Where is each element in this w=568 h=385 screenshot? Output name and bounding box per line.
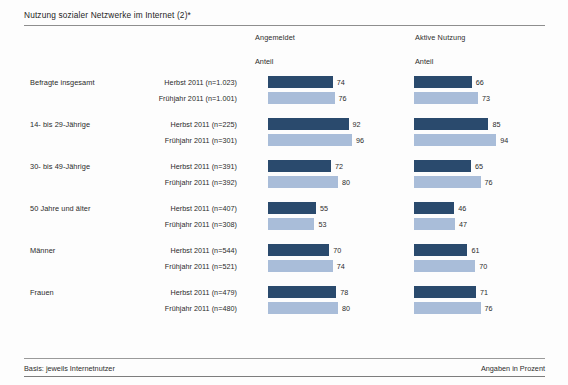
bar [414,118,488,130]
bar-track-aktive-nutzung: 73 [414,92,566,104]
bar-track-aktive-nutzung: 76 [414,302,566,314]
bar [268,134,352,146]
bar-track-aktive-nutzung: 94 [414,134,566,146]
bar [268,202,316,214]
column-header-aktive-nutzung: Aktive Nutzung [415,33,465,42]
series-label: Frühjahr 2011 (n=392) [165,178,237,187]
bar-track-aktive-nutzung: 76 [414,176,566,188]
chart-bar-row: Herbst 2011 (n=479)7871 [0,286,568,299]
chart-bar-row: Frühjahr 2011 (n=1.001)7673 [0,92,568,105]
bar [268,218,314,230]
chart-bar-row: Frühjahr 2011 (n=392)8076 [0,176,568,189]
bar-track-aktive-nutzung: 61 [414,244,566,256]
series-label: Frühjahr 2011 (n=301) [165,136,237,145]
bar-value-label: 71 [480,288,488,297]
chart-bar-row: Herbst 2011 (n=407)5546 [0,202,568,215]
bar-value-label: 73 [482,94,490,103]
series-label: Herbst 2011 (n=479) [170,288,237,297]
footer-divider-bottom [24,376,545,377]
series-label: Frühjahr 2011 (n=480) [165,304,237,313]
bar-value-label: 76 [485,178,493,187]
bar-track-aktive-nutzung: 70 [414,260,566,272]
bar-track-angemeldet: 70 [268,244,428,256]
bar-value-label: 72 [335,162,343,171]
bar [414,202,454,214]
column-subheader-angemeldet: Anteil [255,57,273,66]
bar [268,302,338,314]
bar-track-angemeldet: 74 [268,260,428,272]
footer-units-note: Angaben in Prozent [481,364,545,373]
chart-group: Befragte insgesamtHerbst 2011 (n=1.023)7… [0,76,568,105]
bar-track-aktive-nutzung: 71 [414,286,566,298]
bar-value-label: 92 [353,120,361,129]
chart-bar-row: Herbst 2011 (n=391)7265 [0,160,568,173]
chart-bar-row: Herbst 2011 (n=1.023)7466 [0,76,568,89]
bar-track-angemeldet: 96 [268,134,428,146]
chart-group: 50 Jahre und älterHerbst 2011 (n=407)554… [0,202,568,231]
bar-value-label: 70 [479,262,487,271]
bar [268,244,329,256]
bar-value-label: 96 [356,136,364,145]
bar-value-label: 85 [492,120,500,129]
series-label: Herbst 2011 (n=407) [170,204,237,213]
bar-value-label: 80 [342,304,350,313]
series-label: Frühjahr 2011 (n=308) [165,220,237,229]
bar-value-label: 78 [340,288,348,297]
series-label: Herbst 2011 (n=1.023) [164,78,237,87]
series-label: Herbst 2011 (n=391) [170,162,237,171]
bar [414,218,455,230]
bar-value-label: 94 [500,136,508,145]
bar-track-aktive-nutzung: 46 [414,202,566,214]
bar-value-label: 66 [476,78,484,87]
bar [268,76,333,88]
chart-page: Nutzung sozialer Netzwerke im Internet (… [0,0,568,385]
bar-value-label: 53 [318,220,326,229]
bar-value-label: 74 [337,262,345,271]
bar [414,244,467,256]
bar [414,160,471,172]
chart-bar-row: Frühjahr 2011 (n=308)5347 [0,218,568,231]
bar-track-angemeldet: 92 [268,118,428,130]
chart-group: FrauenHerbst 2011 (n=479)7871Frühjahr 20… [0,286,568,315]
series-label: Frühjahr 2011 (n=521) [165,262,237,271]
bar-track-angemeldet: 80 [268,302,428,314]
bar-track-angemeldet: 74 [268,76,428,88]
chart-bar-row: Frühjahr 2011 (n=521)7470 [0,260,568,273]
chart-group: 30- bis 49-JährigeHerbst 2011 (n=391)726… [0,160,568,189]
bar-value-label: 76 [485,304,493,313]
chart-bar-row: Herbst 2011 (n=544)7061 [0,244,568,257]
bar [268,160,331,172]
bar-track-angemeldet: 78 [268,286,428,298]
bar-value-label: 70 [333,246,341,255]
bar [414,176,481,188]
bar-track-aktive-nutzung: 65 [414,160,566,172]
bar [268,118,349,130]
footer-basis-note: Basis: jeweils Internetnutzer [24,364,115,373]
chart-group: MännerHerbst 2011 (n=544)7061Frühjahr 20… [0,244,568,273]
series-label: Frühjahr 2011 (n=1.001) [159,94,237,103]
bar-value-label: 76 [339,94,347,103]
footer-divider-top [24,358,545,359]
chart-bar-row: Herbst 2011 (n=225)9285 [0,118,568,131]
bar-value-label: 46 [458,204,466,213]
bar-track-aktive-nutzung: 47 [414,218,566,230]
bar [268,286,336,298]
bar-track-angemeldet: 55 [268,202,428,214]
bar-value-label: 65 [475,162,483,171]
bar [414,92,478,104]
bar-value-label: 74 [337,78,345,87]
bar [268,92,335,104]
bar [414,286,476,298]
chart-bar-row: Frühjahr 2011 (n=480)8076 [0,302,568,315]
page-title: Nutzung sozialer Netzwerke im Internet (… [24,10,544,20]
bar-value-label: 55 [320,204,328,213]
series-label: Herbst 2011 (n=225) [170,120,237,129]
chart-plot-area: Befragte insgesamtHerbst 2011 (n=1.023)7… [0,76,568,315]
bar-track-angemeldet: 72 [268,160,428,172]
bar-track-angemeldet: 53 [268,218,428,230]
title-divider [24,25,545,26]
bar [414,134,496,146]
chart-group: 14- bis 29-JährigeHerbst 2011 (n=225)928… [0,118,568,147]
bar [268,176,338,188]
chart-bar-row: Frühjahr 2011 (n=301)9694 [0,134,568,147]
